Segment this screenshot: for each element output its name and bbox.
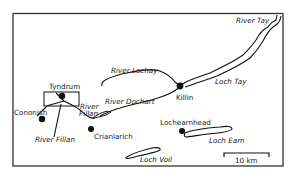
- killin-marker: [177, 83, 184, 90]
- river-fillan-lower-line: [54, 104, 61, 137]
- lochearnhead-marker: [179, 128, 185, 134]
- river-fillan-upper-label-line2: Fillan: [79, 109, 99, 118]
- lochearnhead-label: Lochearnhead: [160, 118, 211, 127]
- river-lochay-label: River Lochay: [111, 66, 158, 75]
- loch-voil-label: Loch Voil: [140, 155, 172, 164]
- killin-label: Killin: [176, 93, 193, 102]
- loch-earn-label: Loch Earn: [209, 136, 245, 145]
- crianlarich-label: Crianlarich: [94, 132, 133, 141]
- map-canvas: River Tay River Lochay River Dochart Riv…: [0, 0, 291, 178]
- cononish-label: Cononish: [14, 108, 47, 117]
- river-fillan-lower-label: River Fillan: [35, 135, 75, 144]
- tyndrum-marker: [59, 93, 65, 99]
- river-dochart-label: River Dochart: [105, 97, 156, 106]
- tyndrum-label: Tyndrum: [48, 82, 80, 91]
- scale-bar-label: 10 km: [235, 156, 258, 165]
- loch-tay-label: Loch Tay: [215, 77, 247, 86]
- river-tay-label: River Tay: [236, 16, 270, 25]
